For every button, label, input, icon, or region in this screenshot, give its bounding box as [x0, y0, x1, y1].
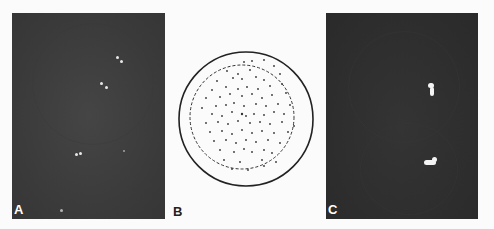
- signal-spot: [75, 153, 78, 156]
- signal-spot: [60, 209, 63, 212]
- panel-a-micrograph: A: [12, 13, 165, 219]
- nucleus-outline: [32, 23, 154, 145]
- signal-spot: [430, 87, 434, 96]
- signal-spot: [105, 86, 108, 89]
- nucleus-schematic: [172, 48, 320, 192]
- signal-spot: [116, 56, 119, 59]
- panel-label-c: C: [328, 203, 337, 216]
- signal-spot: [123, 150, 125, 152]
- signal-spot: [100, 82, 103, 85]
- panel-label-a: A: [14, 203, 23, 216]
- panel-label-b: B: [173, 205, 182, 218]
- panel-b-schematic: [172, 48, 320, 192]
- signal-spot: [432, 157, 437, 162]
- nucleus-outline: [360, 123, 458, 215]
- panel-c-micrograph: C: [326, 13, 478, 219]
- signal-spot: [120, 60, 123, 63]
- signal-spot: [79, 152, 82, 155]
